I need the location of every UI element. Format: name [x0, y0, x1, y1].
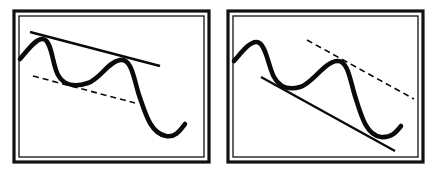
panel-right-outer-frame [228, 11, 423, 162]
panel-left [14, 11, 209, 162]
panel-left-price-curve [20, 39, 185, 136]
panel-right-trendline-solid [261, 77, 395, 151]
panel-right [228, 11, 423, 162]
panel-left-outer-frame [14, 11, 209, 162]
channel-diagram [0, 0, 438, 169]
panel-left-channel-line-dashed [33, 76, 135, 103]
panel-right-price-curve [234, 42, 401, 137]
